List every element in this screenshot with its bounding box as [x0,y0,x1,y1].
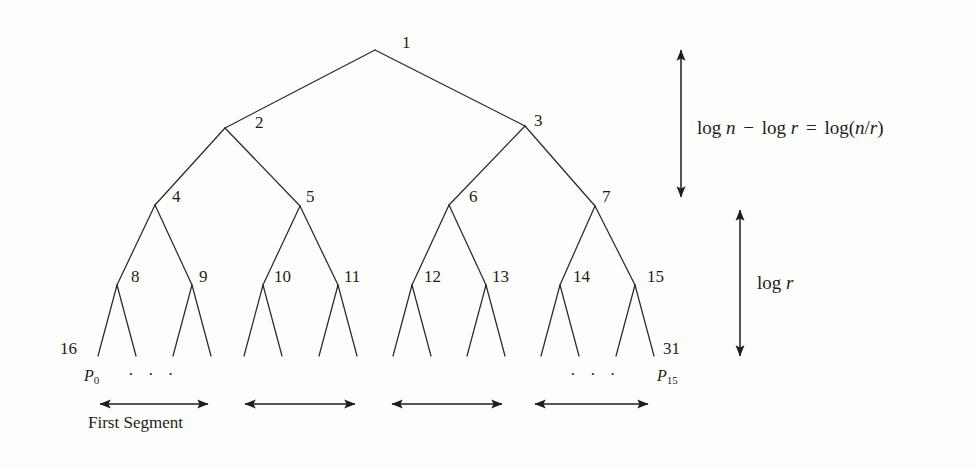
leaf-label-16: 16 [60,340,77,357]
math-log-3: log( [824,117,855,138]
processor-label-p15: P15 [657,368,678,386]
processor-p15-subscript: 15 [667,374,678,386]
figure-canvas: 1 2 3 4 5 6 7 8 9 10 11 12 13 14 15 16 3… [0,0,978,467]
upper-height-marker-label: log n − log r = log(n/r) [697,118,884,137]
tree-edges [98,50,654,356]
node-label-5: 5 [306,188,315,205]
ellipsis-left: · · · [128,366,178,383]
tree-diagram-svg [0,0,978,467]
processor-p0-subscript: 0 [94,374,100,386]
math-log-4: log [757,272,786,293]
node-label-9: 9 [199,268,208,285]
math-var-r-3: r [786,272,793,293]
node-label-13: 13 [492,268,509,285]
node-label-8: 8 [131,268,140,285]
math-equals: = [798,117,824,138]
node-label-14: 14 [573,268,590,285]
math-log-1: log [697,117,726,138]
node-label-15: 15 [647,268,664,285]
leaf-label-31: 31 [663,340,680,357]
processor-p15-base: P [657,367,667,384]
processor-p0-base: P [84,367,94,384]
node-label-7: 7 [602,188,611,205]
node-label-10: 10 [274,268,291,285]
height-marker-arrows [681,50,740,356]
math-log-2: log [762,117,791,138]
math-var-n-2: n [855,117,865,138]
node-label-1: 1 [402,34,411,51]
first-segment-caption: First Segment [88,414,183,431]
math-minus: − [736,117,762,138]
node-label-4: 4 [172,188,181,205]
node-label-12: 12 [424,268,441,285]
node-label-2: 2 [255,114,264,131]
node-label-3: 3 [534,112,543,129]
node-label-6: 6 [469,188,478,205]
math-var-n-1: n [726,117,736,138]
lower-height-marker-label: log r [757,273,793,292]
ellipsis-right: · · · [570,366,620,383]
node-label-11: 11 [344,268,360,285]
processor-label-p0: P0 [84,368,99,386]
math-close-paren: ) [877,117,883,138]
